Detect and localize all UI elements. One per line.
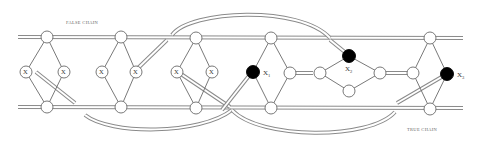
- true-node-2: [115, 101, 127, 113]
- svg-text:X: X: [209, 68, 214, 75]
- hex-node-connector-b: [407, 67, 419, 79]
- variable-node-x1: X 1: [247, 66, 271, 79]
- false-node-3: [190, 32, 202, 44]
- bottom-arc-left: [85, 110, 232, 129]
- variable-node-x2: X 2: [343, 50, 356, 75]
- diag-connector-5: [330, 40, 346, 53]
- true-node-3: [190, 102, 202, 114]
- hex-node-right: [374, 67, 386, 79]
- hex-node-left: [314, 67, 326, 79]
- false-chain-rail: [18, 37, 463, 38]
- false-node-2: [115, 31, 127, 43]
- hex-node-connector-a: [284, 67, 296, 79]
- svg-text:3: 3: [462, 75, 465, 80]
- literal-node-g2-right: X: [130, 66, 142, 78]
- svg-text:X: X: [174, 68, 179, 75]
- false-node-5: [424, 32, 436, 44]
- svg-text:X: X: [133, 68, 138, 75]
- literal-node-g3-left: X: [171, 66, 183, 78]
- diag-connector-4: [222, 72, 252, 110]
- true-node-1: [41, 101, 53, 113]
- true-chain-rail: [18, 107, 463, 108]
- svg-text:X: X: [61, 68, 66, 75]
- literal-node-g3-right: X: [206, 66, 218, 78]
- svg-text:X: X: [23, 68, 28, 75]
- literal-node-g1-right: X: [58, 66, 70, 78]
- true-chain-label: TRUE CHAIN: [407, 127, 438, 132]
- hex-node-bottom: [343, 85, 355, 97]
- false-node-1: [41, 31, 53, 43]
- bottom-arc-right: [232, 110, 395, 133]
- literal-node-g1-left: X: [20, 66, 32, 78]
- svg-text:2: 2: [350, 69, 352, 74]
- literal-node-g2-left: X: [96, 66, 108, 78]
- chain-diagram: X X X X X X X 1 X 2 X 3 FALSE CHAIN: [0, 0, 482, 144]
- svg-text:1: 1: [268, 73, 270, 78]
- diag-connector-2: [136, 40, 167, 70]
- false-chain-label: FALSE CHAIN: [66, 20, 99, 25]
- variable-node-x3: X 3: [441, 68, 466, 81]
- true-node-5: [424, 103, 436, 115]
- true-node-4: [265, 102, 277, 114]
- svg-text:X: X: [99, 68, 104, 75]
- false-node-4: [265, 32, 277, 44]
